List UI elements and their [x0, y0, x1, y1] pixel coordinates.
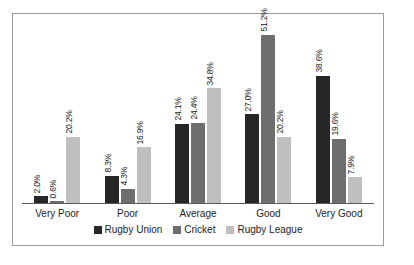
- legend-swatch-rugby-union: [94, 226, 102, 234]
- bar-group-very-good: 38.6%19.6%7.9%: [304, 22, 374, 203]
- plot-area: 2.0%0.6%20.2%8.3%4.3%16.9%24.1%24.4%34.8…: [22, 22, 374, 204]
- bar-groups: 2.0%0.6%20.2%8.3%4.3%16.9%24.1%24.4%34.8…: [22, 22, 374, 203]
- bar-cricket[interactable]: [121, 189, 135, 203]
- legend-swatch-cricket: [173, 226, 181, 234]
- bar-value-label: 19.6%: [330, 112, 339, 135]
- legend-label: Rugby Union: [105, 224, 163, 235]
- bar-slot: 20.2%: [277, 22, 291, 203]
- bar-slot: 51.2%: [261, 22, 275, 203]
- category-label-good: Good: [233, 206, 303, 221]
- bar-slot: 34.8%: [207, 22, 221, 203]
- bar-value-label: 38.6%: [314, 50, 323, 73]
- bar-slot: 19.6%: [332, 22, 346, 203]
- bar-rugby-league[interactable]: [348, 177, 362, 203]
- bar-value-label: 8.3%: [103, 154, 112, 173]
- bar-slot: 2.0%: [34, 22, 48, 203]
- bar-slot: 16.9%: [137, 22, 151, 203]
- bar-slot: 7.9%: [348, 22, 362, 203]
- legend-label: Cricket: [184, 224, 215, 235]
- bar-value-label: 0.6%: [49, 179, 58, 198]
- bar-slot: 0.6%: [50, 22, 64, 203]
- category-label-very-poor: Very Poor: [22, 206, 92, 221]
- category-label-average: Average: [163, 206, 233, 221]
- legend-swatch-rugby-league: [226, 226, 234, 234]
- bar-cricket[interactable]: [191, 123, 205, 203]
- bar-rugby-league[interactable]: [137, 147, 151, 203]
- category-label-poor: Poor: [92, 206, 162, 221]
- legend-item-rugby-union[interactable]: Rugby Union: [94, 224, 163, 235]
- bar-slot: 38.6%: [316, 22, 330, 203]
- bar-cricket[interactable]: [261, 35, 275, 203]
- bar-value-label: 34.8%: [206, 62, 215, 85]
- legend-item-rugby-league[interactable]: Rugby League: [226, 224, 302, 235]
- bar-value-label: 2.0%: [33, 175, 42, 194]
- bar-rugby-league[interactable]: [66, 137, 80, 203]
- bar-rugby-union[interactable]: [316, 76, 330, 203]
- bar-value-label: 51.2%: [260, 8, 269, 31]
- bar-slot: 24.4%: [191, 22, 205, 203]
- bar-value-label: 24.4%: [190, 97, 199, 120]
- chart-legend: Rugby UnionCricketRugby League: [13, 224, 383, 235]
- bar-slot: 20.2%: [66, 22, 80, 203]
- bar-slot: 24.1%: [175, 22, 189, 203]
- bar-rugby-union[interactable]: [34, 196, 48, 203]
- bar-group-poor: 8.3%4.3%16.9%: [92, 22, 162, 203]
- category-axis-labels: Very PoorPoorAverageGoodVery Good: [22, 206, 374, 221]
- bar-group-very-poor: 2.0%0.6%20.2%: [22, 22, 92, 203]
- bar-rugby-union[interactable]: [105, 176, 119, 203]
- bar-rugby-union[interactable]: [245, 114, 259, 203]
- legend-item-cricket[interactable]: Cricket: [173, 224, 215, 235]
- x-axis-line: [22, 203, 374, 204]
- bar-value-label: 20.2%: [65, 110, 74, 133]
- bar-rugby-union[interactable]: [175, 124, 189, 203]
- bar-slot: 4.3%: [121, 22, 135, 203]
- bar-cricket[interactable]: [332, 139, 346, 204]
- bar-value-label: 4.3%: [119, 167, 128, 186]
- bar-slot: 27.0%: [245, 22, 259, 203]
- chart-frame: 2.0%0.6%20.2%8.3%4.3%16.9%24.1%24.4%34.8…: [12, 13, 384, 246]
- bar-value-label: 7.9%: [346, 155, 355, 174]
- bar-rugby-league[interactable]: [207, 88, 221, 203]
- bar-group-good: 27.0%51.2%20.2%: [233, 22, 303, 203]
- bar-value-label: 24.1%: [174, 98, 183, 121]
- bar-value-label: 20.2%: [276, 110, 285, 133]
- bar-rugby-league[interactable]: [277, 137, 291, 203]
- bar-value-label: 27.0%: [244, 88, 253, 111]
- bar-value-label: 16.9%: [135, 121, 144, 144]
- category-label-very-good: Very Good: [304, 206, 374, 221]
- bar-group-average: 24.1%24.4%34.8%: [163, 22, 233, 203]
- bar-slot: 8.3%: [105, 22, 119, 203]
- legend-label: Rugby League: [237, 224, 302, 235]
